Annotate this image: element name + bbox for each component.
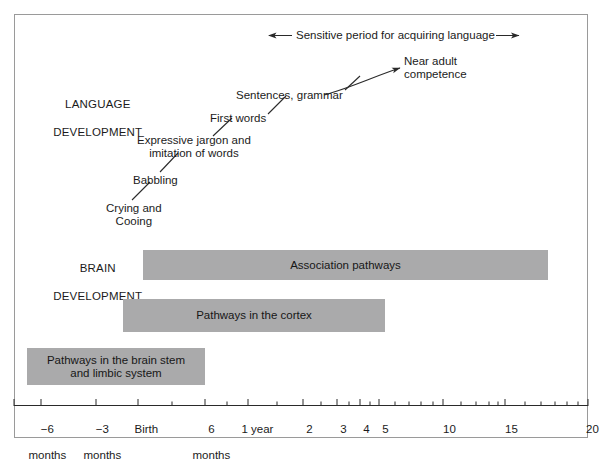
axis-tick-20: 20	[573, 410, 599, 449]
axis-tick-birth: Birth	[122, 410, 158, 449]
axis-tick-minus-6-months-line1: −6	[41, 423, 54, 435]
axis-tick-3-line1: 3	[340, 423, 346, 435]
axis-tick-1-year: 1 year	[229, 410, 274, 449]
axis-tick-minus-3-months: −3 months	[71, 410, 122, 463]
milestone-crying-and-cooing: Crying andCooing	[106, 202, 162, 228]
milestone-near-adult-competence: Near adultcompetence	[404, 55, 467, 81]
axis-tick-15-line1: 15	[505, 423, 518, 435]
axis-tick-2: 2	[293, 410, 312, 449]
milestone-first-words: First words	[210, 112, 266, 125]
axis-tick-5: 5	[369, 410, 388, 449]
axis-tick-minus-3-months-line1: −3	[96, 423, 109, 435]
axis-tick-6-months-line2: months	[193, 449, 231, 461]
language-heading-line2: DEVELOPMENT	[53, 126, 142, 138]
axis-tick-2-line1: 2	[306, 423, 312, 435]
brain-bar-association-pathways: Association pathways	[143, 250, 548, 280]
milestone-sentences-grammar: Sentences, grammar	[236, 89, 343, 102]
axis-tick-20-line1: 20	[586, 423, 599, 435]
brain-bar-label-pathways-brain-stem-limbic: Pathways in the brain stemand limbic sys…	[47, 354, 185, 380]
axis-tick-3: 3	[327, 410, 346, 449]
brain-bar-pathways-brain-stem-limbic: Pathways in the brain stemand limbic sys…	[27, 348, 205, 385]
axis-tick-4: 4	[350, 410, 369, 449]
axis-tick-5-line1: 5	[382, 423, 388, 435]
sensitive-period-label: Sensitive period for acquiring language	[296, 29, 495, 42]
axis-tick-6-months: 6 months	[180, 410, 231, 463]
brain-bar-label-pathways-in-the-cortex: Pathways in the cortex	[196, 309, 312, 322]
axis-tick-15: 15	[492, 410, 518, 449]
language-heading-line1: LANGUAGE	[65, 98, 131, 110]
axis-tick-minus-3-months-line2: months	[84, 449, 122, 461]
milestone-babbling: Babbling	[133, 174, 178, 187]
axis-tick-10: 10	[430, 410, 456, 449]
language-development-heading: LANGUAGE DEVELOPMENT	[36, 83, 146, 153]
axis-tick-6-months-line1: 6	[208, 423, 214, 435]
axis-tick-minus-6-months-line2: months	[29, 449, 67, 461]
brain-heading-line1: BRAIN	[80, 262, 116, 274]
axis-tick-birth-line1: Birth	[135, 423, 159, 435]
axis-tick-minus-6-months: −6 months	[16, 410, 67, 463]
milestone-expressive-jargon: Expressive jargon andimitation of words	[137, 134, 251, 160]
axis-tick-1-year-line1: 1 year	[241, 423, 273, 435]
brain-bar-label-association-pathways: Association pathways	[290, 259, 401, 272]
axis-tick-10-line1: 10	[443, 423, 456, 435]
brain-bar-pathways-in-the-cortex: Pathways in the cortex	[123, 299, 385, 332]
